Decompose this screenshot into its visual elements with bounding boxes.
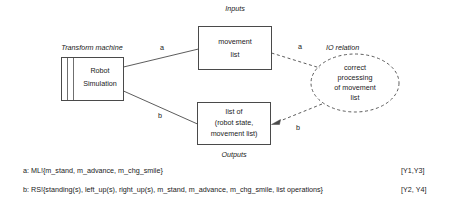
legend-tag-a: [Y1,Y3] [401, 166, 425, 175]
io-relation-label-line2: processing [338, 73, 373, 83]
input-box-label-line2: list [231, 50, 240, 60]
io-relation-label-line3: of movement [334, 83, 376, 93]
caption-transform-machine: Transform machine [61, 43, 122, 52]
io-relation-label-line4: list [351, 93, 360, 103]
transform-machine-label-line2: Simulation [83, 79, 117, 89]
legend-line-a: a: ML!{m_stand, m_advance, m_chg_smile} [23, 166, 163, 175]
io-relation-label-line1: correct [344, 63, 366, 73]
output-box-label-line1: list of [226, 107, 243, 117]
edge-label-input-to-relation: a [298, 42, 302, 51]
caption-io-relation: IO relation [326, 43, 359, 52]
caption-inputs: Inputs [225, 4, 245, 13]
caption-outputs: Outputs [221, 150, 246, 159]
edge-input-to-relation [272, 53, 321, 68]
diagram-canvas: Inputs Outputs Transform machine IO rela… [0, 0, 451, 204]
legend-tag-b: [Y2, Y4] [401, 185, 426, 194]
input-box [199, 27, 272, 70]
input-box-label-line1: movement [218, 37, 252, 47]
edge-machine-to-input [124, 49, 199, 67]
output-box-label-line3: movement list) [211, 129, 258, 139]
edge-label-machine-to-input: a [160, 43, 164, 52]
legend-line-b: b: RS!{standing(s), left_up(s), right_up… [23, 185, 323, 194]
edge-label-machine-to-output: b [158, 111, 162, 120]
transform-machine-label-line1: Robot [90, 66, 109, 76]
edge-relation-to-output [275, 104, 322, 123]
arrowhead-relation-to-output [272, 120, 281, 125]
output-box-label-line2: (robot state, [215, 118, 253, 128]
edge-label-relation-to-output: b [296, 123, 300, 132]
